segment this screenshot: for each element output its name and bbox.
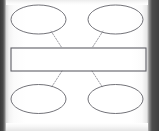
connector-top-left-line <box>51 31 62 48</box>
concept-map-diagram <box>0 0 159 131</box>
node-bottom-left-ellipse[interactable] <box>11 85 66 114</box>
center-rectangle[interactable] <box>11 48 146 71</box>
scanned-page <box>0 0 159 131</box>
node-bottom-right-ellipse[interactable] <box>88 85 143 114</box>
node-top-right-ellipse[interactable] <box>88 5 143 34</box>
connector-top-right-line <box>92 31 103 48</box>
connector-bottom-left-line <box>51 71 62 88</box>
connector-bottom-right-line <box>92 71 103 88</box>
node-top-left-ellipse[interactable] <box>11 5 66 34</box>
